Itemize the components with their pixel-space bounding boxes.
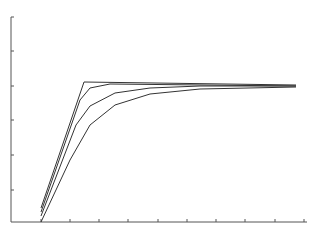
curve-2-line <box>41 84 296 212</box>
data-lines <box>41 82 296 222</box>
line-chart <box>0 0 315 238</box>
curve-4-line <box>41 87 296 222</box>
curve-3-line <box>41 86 296 216</box>
